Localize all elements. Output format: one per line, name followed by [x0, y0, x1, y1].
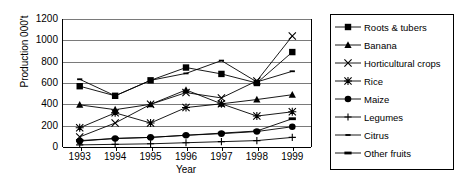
y-axis-tick-label: 800 — [24, 57, 58, 67]
asterisk-marker-icon — [334, 74, 362, 88]
legend: Roots & tubersBananaHorticultural cropsR… — [330, 14, 454, 170]
legend-item-label: Other fruits — [364, 148, 411, 159]
y-axis-tick-label: 600 — [24, 78, 58, 88]
filled-triangle-marker-icon — [334, 38, 362, 52]
legend-item: Maize — [334, 90, 453, 108]
x-axis-tick-label: 1998 — [237, 151, 277, 162]
small-dash-marker-icon — [334, 128, 362, 142]
filled-circle-marker-icon — [334, 92, 362, 106]
legend-item: Legumes — [334, 108, 453, 126]
x-axis-tick-label: 1994 — [95, 151, 135, 162]
x-axis-tick-label: 1993 — [60, 151, 100, 162]
legend-item-label: Maize — [364, 94, 389, 105]
y-axis-tick-label: 1200 — [24, 14, 58, 24]
series-rice — [76, 100, 297, 132]
y-axis-tick-label: 200 — [24, 121, 58, 131]
legend-item-label: Citrus — [364, 130, 389, 141]
plot-right-border — [311, 19, 312, 147]
x-axis-tick-label: 1995 — [131, 151, 171, 162]
y-axis-tick-label: 1000 — [24, 35, 58, 45]
legend-item-label: Banana — [364, 40, 397, 51]
x-axis-tick-label: 1999 — [272, 151, 312, 162]
legend-item: Other fruits — [334, 144, 453, 162]
legend-item: Horticultural crops — [334, 54, 453, 72]
legend-item: Citrus — [334, 126, 453, 144]
x-axis-tick-label: 1996 — [166, 151, 206, 162]
chart-figure: Production 000't 020040060080010001200 1… — [0, 0, 458, 181]
x-axis-title: Year — [62, 164, 310, 175]
legend-item: Roots & tubers — [334, 18, 453, 36]
legend-item-label: Roots & tubers — [364, 22, 427, 33]
legend-item: Rice — [334, 72, 453, 90]
y-axis-tick-labels: 020040060080010001200 — [22, 0, 58, 181]
legend-item: Banana — [334, 36, 453, 54]
legend-item-label: Horticultural crops — [364, 58, 441, 69]
y-axis-tick-label: 400 — [24, 99, 58, 109]
y-axis-tick-label: 0 — [24, 142, 58, 152]
cross-x-marker-icon — [334, 56, 362, 70]
thick-dash-marker-icon — [334, 146, 362, 160]
filled-square-marker-icon — [334, 20, 362, 34]
legend-item-label: Rice — [364, 76, 383, 87]
x-axis-tick-label: 1997 — [201, 151, 241, 162]
plus-marker-icon — [334, 110, 362, 124]
series-layer — [62, 19, 310, 147]
legend-item-label: Legumes — [364, 112, 403, 123]
